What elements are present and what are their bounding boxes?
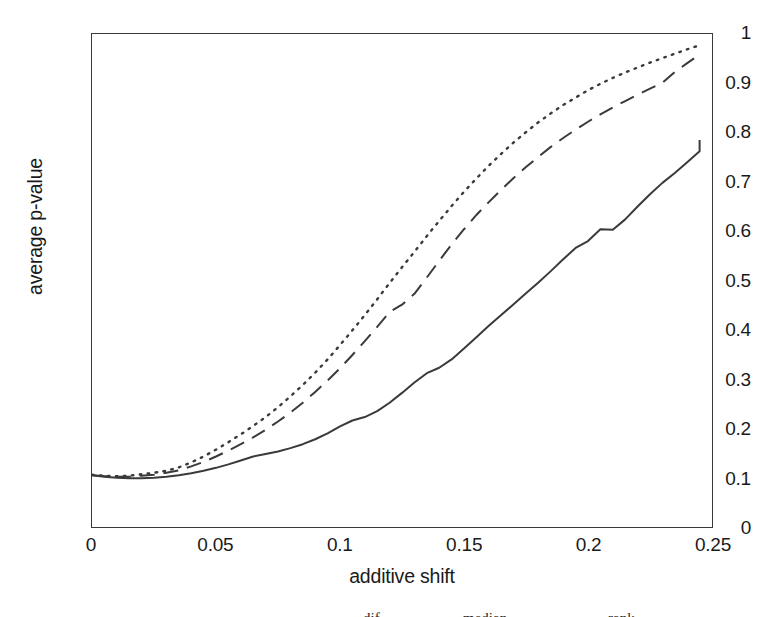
caption-fragment-dif: dif bbox=[363, 610, 380, 617]
plot-area bbox=[91, 33, 713, 528]
caption-fragment-median: median bbox=[463, 610, 507, 617]
x-tick-label: 0 bbox=[36, 535, 146, 554]
x-tick-label: 0.1 bbox=[285, 535, 395, 554]
x-tick-label: 0.05 bbox=[160, 535, 270, 554]
curves-group bbox=[92, 45, 700, 478]
x-axis-label: additive shift bbox=[91, 566, 713, 587]
caption-strip: dif median rank bbox=[0, 596, 760, 617]
x-tick-label: 0.25 bbox=[658, 535, 760, 554]
caption-fragment-rank: rank bbox=[608, 610, 635, 617]
curves-svg bbox=[92, 34, 712, 527]
x-tick-label: 0.2 bbox=[534, 535, 644, 554]
y-axis-label: average p-value bbox=[25, 112, 46, 342]
x-tick-label: 0.15 bbox=[409, 535, 519, 554]
figure-container: 00.10.20.30.40.50.60.70.80.91 00.050.10.… bbox=[0, 0, 760, 617]
series-line-dashed bbox=[92, 55, 700, 477]
